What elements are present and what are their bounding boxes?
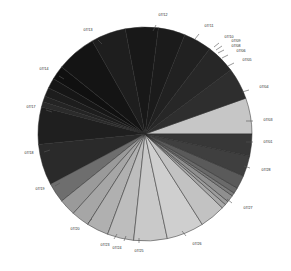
slice-leader-tick (214, 43, 219, 47)
slice-leader-tick (195, 34, 199, 39)
slice-leader-tick (222, 55, 228, 58)
slice-leader-tick (218, 50, 224, 53)
slice-leader-tick (216, 46, 222, 50)
slice-leader-tick (228, 63, 234, 66)
pie-chart-figure: 07/1207/1107/1007/0907/0807/0607/0507/04… (0, 0, 291, 271)
pie-slices-group (38, 27, 252, 241)
pie-chart-svg (0, 0, 291, 271)
